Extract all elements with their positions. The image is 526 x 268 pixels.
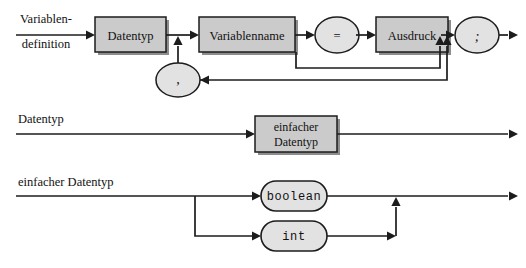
ausdruck-box-label: Ausdruck [388, 29, 437, 43]
semicolon-terminal-label: ; [475, 29, 480, 44]
arrowhead-merge-into-rail [391, 197, 400, 206]
comma-terminal-label: , [176, 72, 180, 87]
railroad-diagram-svg: Variablen- definition Datentyp Variablen… [0, 0, 526, 268]
arrowhead-into-einfacher-datentyp [246, 129, 255, 138]
arrowhead-into-equals [306, 30, 315, 39]
arrowhead-into-int [252, 231, 261, 240]
rule-variablendefinition: Variablen- definition Datentyp Variablen… [16, 12, 518, 97]
branch-rail-to-int [195, 196, 252, 236]
int-terminal-label: int [282, 230, 305, 244]
rule-datentyp: Datentyp einfacher Datentyp [16, 112, 518, 155]
variablenname-box-label: Variablenname [210, 29, 285, 43]
railroad-diagram-canvas: Variablen- definition Datentyp Variablen… [0, 0, 526, 268]
rule-label-variablendefinition-line2: definition [22, 37, 71, 51]
arrowhead-into-variablenname [190, 30, 199, 39]
einfacher-datentyp-box-label-line2: Datentyp [274, 135, 318, 149]
boolean-terminal-label: boolean [267, 190, 322, 204]
arrowhead-exit-row2 [509, 129, 518, 138]
arrowhead-into-ausdruck [367, 30, 376, 39]
arrowhead-exit-row1 [509, 30, 518, 39]
rule-label-datentyp: Datentyp [18, 112, 64, 126]
arrowhead-into-datentyp [86, 30, 95, 39]
arrowhead-exit-row3 [509, 191, 518, 200]
arrowhead-into-boolean [252, 191, 261, 200]
rule-einfacher-datentyp: einfacher Datentyp boolean int [16, 175, 518, 251]
arrowhead-int-into-merge [387, 231, 396, 240]
equals-terminal-label: = [333, 29, 340, 43]
rule-label-variablendefinition-line1: Variablen- [20, 12, 72, 26]
arrowhead-into-comma [200, 75, 209, 84]
einfacher-datentyp-box-label-line1: einfacher [274, 120, 319, 134]
arrowhead-comma-into-rail [173, 36, 182, 45]
rule-label-einfacher-datentyp: einfacher Datentyp [18, 175, 113, 189]
datentyp-box-label: Datentyp [108, 29, 154, 43]
